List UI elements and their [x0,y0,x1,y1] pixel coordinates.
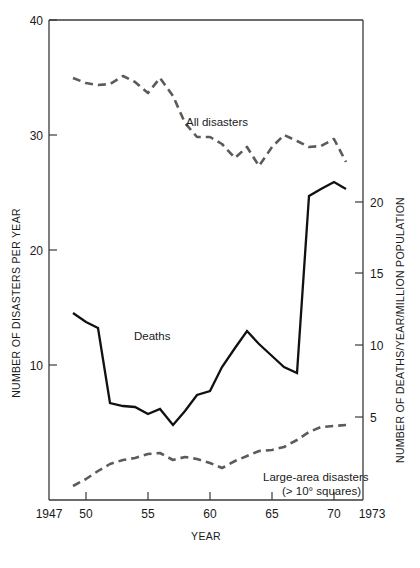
y-tick-label-20: 20 [30,244,44,258]
x-axis-title: YEAR [191,530,221,542]
y-tick-label-10: 10 [30,359,44,373]
y2-tick-label-5: 5 [370,411,377,425]
x-tick-label-55: 55 [141,507,155,521]
series-label-deaths: Deaths [134,330,171,342]
y-axis-left-ticks [49,20,57,365]
y-tick-label-30: 30 [30,129,44,143]
y2-tick-label-20: 20 [370,196,384,210]
y-axis-title: NUMBER OF DISASTERS PER YEAR [10,208,22,398]
series-deaths-line [73,182,346,425]
series-label-large-area-disasters: Large-area disasters [263,471,369,483]
x-tick-label-1973: 1973 [359,507,386,521]
y2-axis-title: NUMBER OF DEATHS/YEAR/MILLION POPULATION [394,197,406,463]
y2-tick-label-15: 15 [370,267,384,281]
x-tick-label-70: 70 [327,507,341,521]
x-tick-label-60: 60 [203,507,217,521]
x-tick-label-1947: 1947 [36,507,63,521]
x-tick-label-50: 50 [79,507,93,521]
chart-figure: 40 30 20 10 20 15 10 5 1947 50 55 60 65 … [0,0,420,568]
x-tick-label-65: 65 [265,507,279,521]
chart-canvas: 40 30 20 10 20 15 10 5 1947 50 55 60 65 … [0,0,420,568]
y-tick-label-40: 40 [30,14,44,28]
y-axis-right-ticks [355,202,363,417]
series-sublabel-large-area-disasters: (> 10° squares) [282,485,361,497]
series-label-all-disasters: All disasters [186,116,248,128]
y2-tick-label-10: 10 [370,339,384,353]
